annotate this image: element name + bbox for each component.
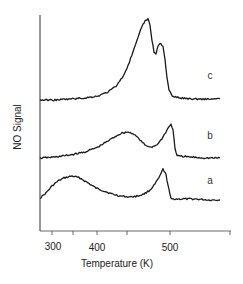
x-axis-title: Temperature (K) [81,258,153,269]
y-axis-title: NO Signal [12,104,23,150]
data-traces [40,19,220,201]
plot-axes: 300 400 500 Temperature (K) NO Signal [12,15,231,269]
x-axis-ticks [52,231,230,235]
chart-figure: 300 400 500 Temperature (K) NO Signal c … [0,0,243,284]
trace-a [40,169,220,201]
series-label-a: a [207,175,213,186]
trace-b [40,124,220,159]
series-label-b: b [207,130,213,141]
x-tick-label-300: 300 [45,241,62,252]
series-label-c: c [208,70,213,81]
x-tick-label-400: 400 [89,242,106,253]
trace-c [40,19,220,101]
x-tick-label-500: 500 [162,242,179,253]
